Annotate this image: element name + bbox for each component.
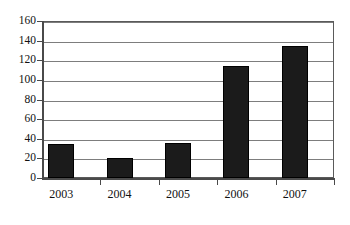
x-axis-category-labels: 20032004200520062007 xyxy=(42,188,334,208)
x-axis-line xyxy=(42,178,335,180)
y-axis-tick-label: 60 xyxy=(25,113,37,125)
bar xyxy=(107,158,133,178)
y-axis-tick-label: 20 xyxy=(25,153,37,165)
y-axis-tick-mark xyxy=(37,100,42,101)
bars-layer xyxy=(42,21,334,178)
y-axis-tick-label: 0 xyxy=(30,172,36,184)
y-axis-tick-label: 40 xyxy=(25,133,37,145)
x-axis-tick-mark xyxy=(276,180,277,185)
x-axis-tick-mark xyxy=(217,180,218,185)
y-axis-tick-mark xyxy=(37,41,42,42)
x-axis-category-label: 2007 xyxy=(283,188,307,200)
x-axis-tick-mark xyxy=(159,180,160,185)
x-axis-tick-mark xyxy=(334,180,335,185)
x-axis-category-label: 2004 xyxy=(108,188,132,200)
x-axis-category-label: 2003 xyxy=(49,188,73,200)
x-axis-category-label: 2006 xyxy=(224,188,248,200)
y-axis-tick-labels: 020406080100120140160 xyxy=(0,21,36,178)
bar xyxy=(165,143,191,178)
y-axis-tick-label: 140 xyxy=(19,35,36,47)
y-axis-tick-label: 160 xyxy=(19,15,36,27)
x-axis-tick-mark xyxy=(100,180,101,185)
bar-chart: 020406080100120140160 200320042005200620… xyxy=(0,0,350,225)
bar xyxy=(282,46,308,178)
y-axis-tick-label: 80 xyxy=(25,94,37,106)
bar xyxy=(223,66,249,178)
y-axis-tick-mark xyxy=(37,21,42,22)
x-axis-category-label: 2005 xyxy=(166,188,190,200)
y-axis-tick-mark xyxy=(37,80,42,81)
y-axis-tick-mark xyxy=(37,139,42,140)
bar xyxy=(48,144,74,178)
y-axis-tick-label: 100 xyxy=(19,74,36,86)
y-axis-tick-mark xyxy=(37,119,42,120)
y-axis-tick-mark xyxy=(37,158,42,159)
y-axis-tick-label: 120 xyxy=(19,55,36,67)
y-axis-tick-mark xyxy=(37,178,42,179)
y-axis-tick-mark xyxy=(37,60,42,61)
